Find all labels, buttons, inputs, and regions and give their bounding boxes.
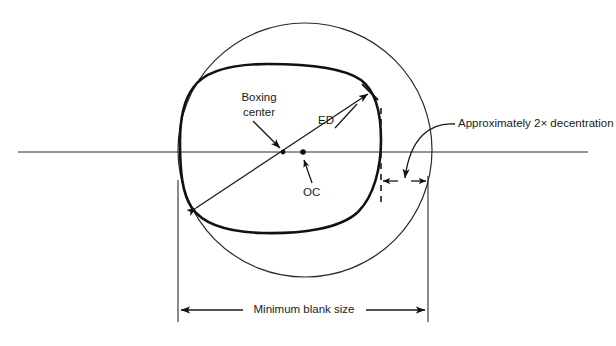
boxing-center-leader-line bbox=[253, 121, 280, 148]
blank-circle bbox=[178, 23, 432, 277]
boxing-center-label-line1: Boxing bbox=[241, 91, 276, 103]
ed-upper-tick-icon bbox=[362, 84, 378, 100]
oc-label: OC bbox=[303, 186, 320, 198]
lens-blank-diagram: Boxing center ED OC Approximately 2× dec… bbox=[0, 0, 616, 346]
decentration-label: Approximately 2× decentration bbox=[458, 117, 614, 129]
diagram-canvas: Boxing center ED OC Approximately 2× dec… bbox=[0, 0, 616, 346]
lens-shape bbox=[180, 64, 381, 233]
ed-leader-line bbox=[335, 104, 357, 128]
ed-label: ED bbox=[318, 114, 334, 126]
oc-leader-line bbox=[304, 160, 312, 183]
optical-center-point bbox=[300, 149, 306, 155]
minimum-blank-size-label: Minimum blank size bbox=[254, 303, 355, 315]
boxing-center-label-line2: center bbox=[243, 106, 275, 118]
boxing-center-point bbox=[281, 150, 286, 155]
